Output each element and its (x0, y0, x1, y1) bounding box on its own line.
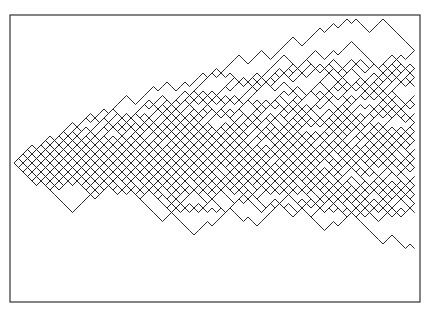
walk-path (14, 73, 415, 163)
random-walk-figure (0, 0, 435, 313)
walk-path (14, 73, 415, 163)
walk-path (14, 127, 415, 181)
walk-path (14, 136, 415, 199)
walk-path (14, 150, 415, 213)
walk-path (14, 150, 415, 213)
walk-path (14, 109, 415, 199)
walk-paths (14, 19, 415, 249)
walk-path (14, 136, 415, 190)
walk-path (14, 100, 415, 163)
walk-path (14, 105, 415, 186)
figure-frame (10, 15, 420, 302)
lattice-canvas (0, 0, 435, 313)
walk-path (14, 82, 415, 172)
